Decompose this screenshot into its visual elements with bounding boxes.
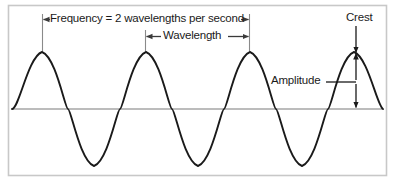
crest-label: Crest bbox=[346, 12, 372, 24]
frequency-label: Frequency = 2 wavelengths per second bbox=[50, 13, 244, 25]
amplitude-label: Amplitude bbox=[271, 75, 320, 87]
wave-diagram-canvas bbox=[0, 0, 396, 182]
wavelength-label: Wavelength bbox=[163, 30, 221, 42]
wave-diagram-figure: Frequency = 2 wavelengths per second Wav… bbox=[0, 0, 396, 182]
